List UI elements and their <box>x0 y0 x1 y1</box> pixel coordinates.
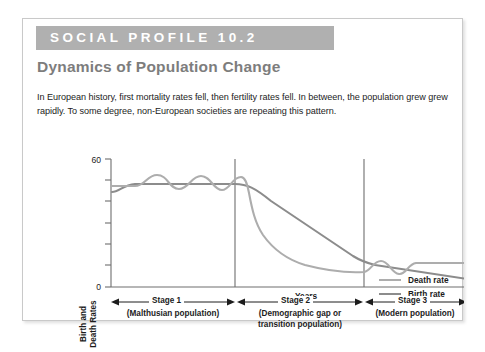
y-axis-min-label: 0 <box>79 282 101 292</box>
stage-3-caption-line1: (Modern population) <box>350 309 480 320</box>
stage-2-caption-line1: (Demographic gap or <box>230 309 370 320</box>
body-paragraph: In European history, first mortality rat… <box>37 91 448 118</box>
social-profile-card: SOCIAL PROFILE 10.2 Dynamics of Populati… <box>22 18 463 321</box>
banner-label: SOCIAL PROFILE 10.2 <box>50 31 258 45</box>
banner-bar: SOCIAL PROFILE 10.2 <box>36 26 334 50</box>
stage-2-caption: (Demographic gap or transition populatio… <box>230 309 370 330</box>
y-axis-title-line2: Death Rates <box>89 294 99 352</box>
legend-label-death-rate: Death rate <box>408 275 449 285</box>
stage-1-caption: (Malthusian population) <box>103 309 243 320</box>
stage-1-caption-line1: (Malthusian population) <box>103 309 243 320</box>
stage-2-caption-line2: transition population) <box>230 320 370 331</box>
legend-swatch-death-rate <box>379 279 401 281</box>
stage-1-name: Stage 1 <box>149 296 184 305</box>
y-axis-title: Birth and Death Rates <box>79 294 99 352</box>
stage-3-name: Stage 3 <box>395 296 430 305</box>
legend-item-death-rate: Death rate <box>379 273 479 287</box>
y-axis-title-line1: Birth and <box>79 294 89 352</box>
stage-3-caption: (Modern population) <box>350 309 480 320</box>
population-change-chart: 60 0 Birth and Death Rates Years Death r… <box>23 131 464 321</box>
y-axis-ticks <box>105 159 111 287</box>
death-rate-line <box>112 175 464 274</box>
stage-2-name: Stage 2 <box>278 296 313 305</box>
y-axis-max-label: 60 <box>79 155 101 165</box>
page-title: Dynamics of Population Change <box>37 58 281 76</box>
legend-swatch-birth-rate <box>379 293 401 295</box>
